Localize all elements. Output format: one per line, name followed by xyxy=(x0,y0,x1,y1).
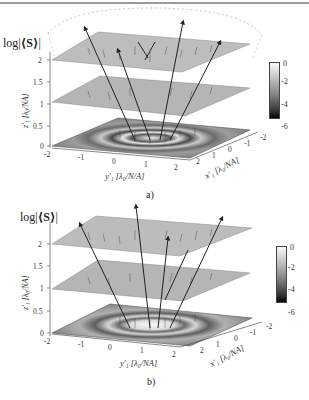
plot-3d-a xyxy=(0,0,309,200)
panel-caption-b: b) xyxy=(147,376,155,387)
panel-caption-a: a) xyxy=(146,189,154,200)
colorbar-b xyxy=(276,246,287,303)
plot-3d-b xyxy=(0,200,309,400)
colorbar-title-a: log|⟨S⟩| xyxy=(3,36,41,51)
y-axis-label-b: y′₁ [λ₀/NA] xyxy=(120,358,157,368)
z-axis-label-a: z′₁ [λ₀/NA] xyxy=(21,93,30,128)
z-axis-label-b: z′₁ [λ₀/NA] xyxy=(21,275,30,310)
colorbar-a xyxy=(269,62,280,119)
figure-panel-b: log|⟨S⟩| z′₁ [λ₀/NA] 2 1.5 1 0.5 0 -2 -1… xyxy=(0,200,309,400)
colorbar-title-b: log|⟨S⟩| xyxy=(20,210,58,225)
figure-panel-a: log|⟨S⟩| z′₁ [λ₀/NA] 2 1.5 1 0.5 0 -2 -1… xyxy=(0,0,309,200)
y-axis-label-a: y′₁ [λ₀/N/A] xyxy=(105,171,145,181)
